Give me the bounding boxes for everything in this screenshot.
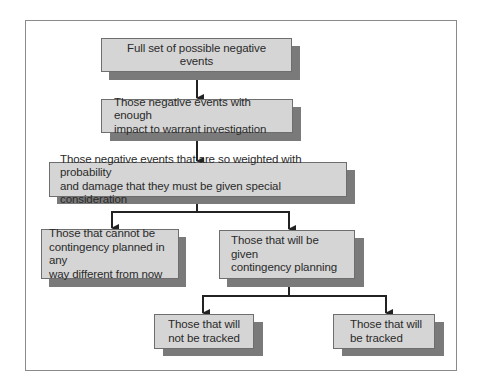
- node-label: Those that will be given contingency pla…: [231, 234, 346, 275]
- node-label: Those negative events with enough impact…: [114, 96, 284, 137]
- node-label: Full set of possible negative events: [110, 42, 283, 69]
- node-label: Those that cannot be contingency planned…: [49, 227, 170, 281]
- node-label: Those that will not be tracked: [168, 318, 240, 345]
- node-label: Those negative events that are so weight…: [60, 153, 338, 207]
- node-label: Those that will be tracked: [350, 318, 422, 345]
